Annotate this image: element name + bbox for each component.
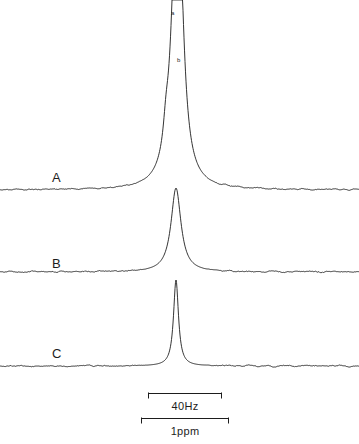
scalebar-hz-label: 40Hz [148, 400, 222, 412]
trace-label-a: A [52, 170, 61, 185]
scalebar-ppm-rule [141, 417, 229, 424]
nmr-figure: A B C a b 40Hz 1ppm [0, 0, 359, 444]
spectra-plot [0, 0, 359, 444]
scalebar-ppm-label: 1ppm [141, 425, 229, 437]
scalebar-hz: 40Hz [148, 392, 222, 412]
scalebar-ppm: 1ppm [141, 417, 229, 437]
spectrum-trace-a [0, 0, 359, 190]
trace-label-b: B [52, 256, 61, 271]
peak-annotation-b: b [177, 57, 180, 63]
trace-group-A [0, 0, 359, 190]
peak-annotation-a: a [171, 10, 174, 16]
scalebar-hz-rule [148, 392, 222, 399]
trace-label-c: C [52, 346, 62, 361]
